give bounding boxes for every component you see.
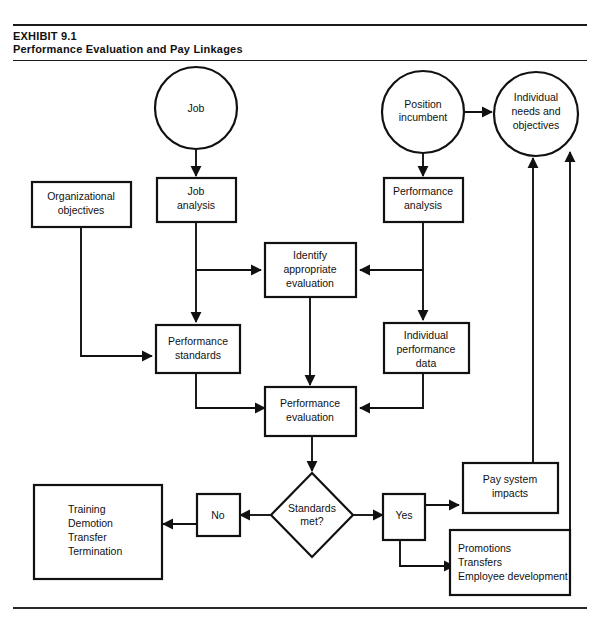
node-individual-performance-data[interactable]: Individual performance data <box>384 323 469 373</box>
exhibit-page: EXHIBIT 9.1 Performance Evaluation and P… <box>0 0 600 637</box>
connector-org-objectives-to-performance-standards <box>81 227 152 356</box>
performance-evaluation-label-1: Performance <box>280 397 340 409</box>
node-position-incumbent[interactable]: Position incumbent <box>382 71 464 153</box>
performance-analysis-label-2: analysis <box>404 199 442 211</box>
exhibit-bottom-rule <box>13 607 587 609</box>
node-performance-evaluation[interactable]: Performance evaluation <box>265 387 356 436</box>
pay-system-impacts-label-1: Pay system <box>483 473 538 485</box>
job-analysis-label-2: analysis <box>177 199 215 211</box>
position-incumbent-label-2: incumbent <box>399 111 448 123</box>
job-analysis-label-1: Job <box>188 185 205 197</box>
node-individual-needs[interactable]: Individual needs and objectives <box>494 72 578 156</box>
performance-standards-label-1: Performance <box>168 335 228 347</box>
node-organizational-objectives[interactable]: Organizational objectives <box>32 182 131 227</box>
organizational-objectives-label-1: Organizational <box>47 190 115 202</box>
connector-individual-data-to-performance-evaluation <box>360 373 423 408</box>
training-outcomes-label-3: Transfer <box>68 531 107 543</box>
identify-evaluation-label-3: evaluation <box>286 277 334 289</box>
flowchart-canvas: Job Position incumbent Individual needs … <box>0 0 600 637</box>
organizational-objectives-label-2: objectives <box>58 204 105 216</box>
pay-system-impacts-label-2: impacts <box>492 487 528 499</box>
yes-branch-label: Yes <box>395 509 412 521</box>
individual-performance-data-label-3: data <box>416 357 437 369</box>
individual-needs-label-2: needs and <box>511 105 560 117</box>
node-standards-met[interactable]: Standards met? <box>271 473 353 557</box>
performance-analysis-label-1: Performance <box>393 185 453 197</box>
node-job[interactable]: Job <box>155 67 237 149</box>
training-outcomes-label-1: Training <box>68 503 106 515</box>
individual-performance-data-label-1: Individual <box>404 329 448 341</box>
standards-met-label-1: Standards <box>288 502 336 514</box>
promotions-label-2: Transfers <box>458 556 502 568</box>
training-outcomes-label-2: Demotion <box>68 517 113 529</box>
node-performance-standards[interactable]: Performance standards <box>156 325 240 373</box>
identify-evaluation-label-1: Identify <box>293 249 328 261</box>
identify-evaluation-label-2: appropriate <box>283 263 336 275</box>
node-job-analysis[interactable]: Job analysis <box>157 178 236 222</box>
promotions-label-3: Employee development <box>458 570 568 582</box>
node-yes-branch[interactable]: Yes <box>383 494 425 540</box>
promotions-label-1: Promotions <box>458 542 511 554</box>
individual-needs-label-3: objectives <box>513 119 560 131</box>
node-no-branch[interactable]: No <box>197 494 240 536</box>
individual-performance-data-label-2: performance <box>397 343 456 355</box>
connector-performance-standards-to-performance-evaluation <box>196 373 265 408</box>
node-training-outcomes[interactable]: Training Demotion Transfer Termination <box>34 485 162 579</box>
standards-met-label-2: met? <box>300 515 324 527</box>
node-performance-analysis[interactable]: Performance analysis <box>384 178 463 222</box>
node-pay-system-impacts[interactable]: Pay system impacts <box>463 463 558 513</box>
position-incumbent-label-1: Position <box>404 98 442 110</box>
performance-standards-label-2: standards <box>175 349 221 361</box>
no-branch-label: No <box>211 509 225 521</box>
individual-needs-label-1: Individual <box>514 91 558 103</box>
training-outcomes-label-4: Termination <box>68 545 122 557</box>
node-promotions[interactable]: Promotions Transfers Employee developmen… <box>450 530 570 595</box>
connector-yes-to-promotions <box>400 540 454 566</box>
job-label: Job <box>188 102 205 114</box>
performance-evaluation-label-2: evaluation <box>286 411 334 423</box>
node-identify-evaluation[interactable]: Identify appropriate evaluation <box>265 243 356 297</box>
